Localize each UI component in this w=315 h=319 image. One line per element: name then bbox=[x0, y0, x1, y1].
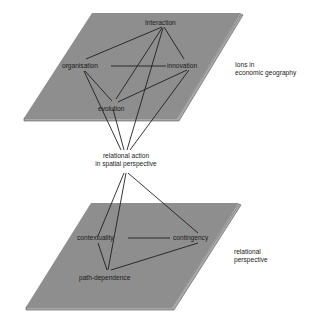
center-label-line2: in spatial perspective bbox=[95, 160, 157, 168]
node-path-dependence: path-dependence bbox=[79, 274, 131, 282]
node-evolution: evolution bbox=[98, 105, 125, 112]
bottom-plane bbox=[26, 203, 241, 310]
relational-action-diagram: Interaction organisation innovation evol… bbox=[0, 0, 315, 319]
top-plane bbox=[24, 13, 243, 121]
bottom-plane-label-line1: relational bbox=[234, 248, 261, 255]
top-plane-face bbox=[24, 13, 241, 118]
top-plane-label-line2: economic geography bbox=[235, 69, 297, 77]
center-label-line1: relational action bbox=[103, 152, 150, 159]
node-contextuality: contextuality bbox=[77, 234, 114, 242]
top-plane-label-line1: Ions in bbox=[235, 61, 255, 68]
node-contingency: contingency bbox=[173, 234, 209, 242]
node-innovation: innovation bbox=[167, 62, 197, 69]
node-interaction: Interaction bbox=[145, 19, 176, 26]
bottom-plane-label-line2: perspective bbox=[234, 256, 268, 264]
node-organisation: organisation bbox=[62, 62, 98, 70]
